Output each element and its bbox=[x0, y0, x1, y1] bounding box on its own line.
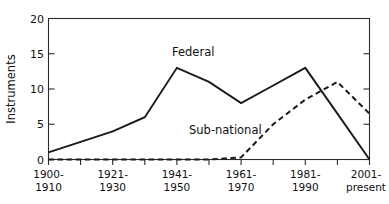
x-tick-label-line2: 1910 bbox=[35, 181, 62, 193]
y-axis: 0 5 10 15 20 bbox=[30, 13, 370, 167]
y-tick-label: 20 bbox=[30, 13, 44, 26]
y-tick-label: 0 bbox=[37, 154, 44, 167]
y-tick-label: 10 bbox=[30, 83, 44, 96]
x-tick-label-line2: present bbox=[346, 181, 386, 193]
x-axis-labels: 1900- 1910 1921- 1930 1941- 1950 1961- 1… bbox=[33, 168, 386, 193]
y-tick-group-20: 20 bbox=[30, 13, 44, 26]
y-tick-label: 15 bbox=[30, 48, 44, 61]
x-tick-label-line1: 2001- bbox=[351, 168, 382, 180]
x-tick-label-line1: 1900- bbox=[33, 168, 64, 180]
x-tick-label-line1: 1981- bbox=[290, 168, 321, 180]
series-label-federal: Federal bbox=[172, 45, 214, 59]
x-tick-label-line1: 1961- bbox=[226, 168, 257, 180]
x-tick-label-1900-1910: 1900- 1910 bbox=[33, 168, 64, 193]
y-axis-title: Instruments bbox=[4, 54, 18, 123]
series-line-federal bbox=[49, 68, 370, 160]
x-tick-label-line2: 1970 bbox=[228, 181, 255, 193]
plot-frame bbox=[49, 19, 370, 160]
series-label-sub-national: Sub-national bbox=[189, 123, 262, 137]
x-tick-label-line2: 1930 bbox=[99, 181, 126, 193]
x-tick-label-1981-1990: 1981- 1990 bbox=[290, 168, 321, 193]
x-tick-label-line2: 1950 bbox=[164, 181, 191, 193]
x-tick-label-2001-present: 2001- present bbox=[346, 168, 386, 193]
line-chart: Instruments 0 5 10 15 bbox=[0, 0, 389, 204]
x-tick-label-1961-1970: 1961- 1970 bbox=[226, 168, 257, 193]
x-tick-label-line1: 1941- bbox=[162, 168, 193, 180]
series-line-sub-national bbox=[49, 82, 370, 160]
y-tick-group-10: 10 bbox=[30, 83, 370, 96]
chart-figure: Instruments 0 5 10 15 bbox=[0, 0, 389, 204]
x-tick-label-line2: 1990 bbox=[292, 181, 319, 193]
x-tick-label-1921-1930: 1921- 1930 bbox=[97, 168, 128, 193]
x-tick-label-line1: 1921- bbox=[97, 168, 128, 180]
x-tick-label-1941-1950: 1941- 1950 bbox=[162, 168, 193, 193]
y-tick-label: 5 bbox=[37, 118, 44, 131]
